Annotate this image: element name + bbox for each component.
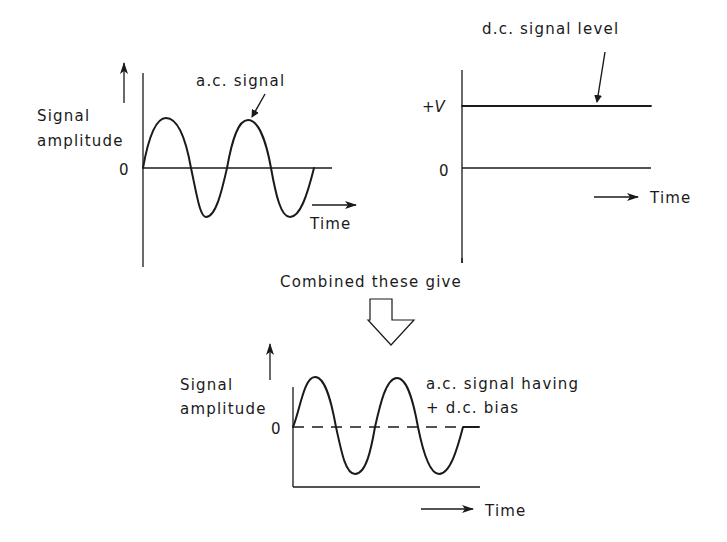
ac-time-label: Time xyxy=(309,215,352,233)
combined-zero-label: 0 xyxy=(271,420,282,438)
combined-caption: Combined these give xyxy=(280,273,462,291)
signal-diagram: Signal amplitude 0 a.c. signal Time d.c.… xyxy=(0,0,727,542)
dc-signal-panel: d.c. signal level +V 0 Time xyxy=(422,20,692,263)
dc-time-label: Time xyxy=(649,189,692,207)
combined-y-label-line1: Signal xyxy=(180,376,233,394)
dc-callout-pointer xyxy=(597,52,605,102)
combined-callout-line1: a.c. signal having xyxy=(426,375,579,393)
hollow-down-arrow-icon xyxy=(368,299,414,345)
ac-callout-label: a.c. signal xyxy=(196,72,285,90)
ac-signal-panel: Signal amplitude 0 a.c. signal Time xyxy=(37,63,356,267)
ac-y-label-line2: amplitude xyxy=(37,132,124,150)
ac-zero-label: 0 xyxy=(119,161,130,179)
ac-y-label-line1: Signal xyxy=(37,107,90,125)
combined-signal-panel: Signal amplitude 0 a.c. signal having + … xyxy=(180,344,579,520)
combined-time-label: Time xyxy=(484,502,527,520)
combined-y-label-line2: amplitude xyxy=(180,400,267,418)
combined-callout-line2: + d.c. bias xyxy=(426,399,519,417)
transition: Combined these give xyxy=(280,258,462,345)
dc-zero-label: 0 xyxy=(439,162,450,180)
dc-callout-label: d.c. signal level xyxy=(482,20,619,38)
ac-callout-pointer xyxy=(252,94,265,117)
dc-level-label: +V xyxy=(422,98,447,116)
